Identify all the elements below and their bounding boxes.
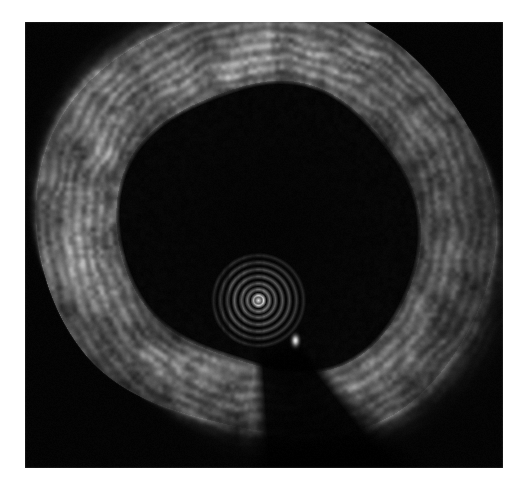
- ivus-viewport: [0, 0, 527, 493]
- ivus-scan-frame: [25, 22, 503, 468]
- caption-strip: [0, 471, 527, 493]
- ivus-scan-image: [25, 22, 503, 468]
